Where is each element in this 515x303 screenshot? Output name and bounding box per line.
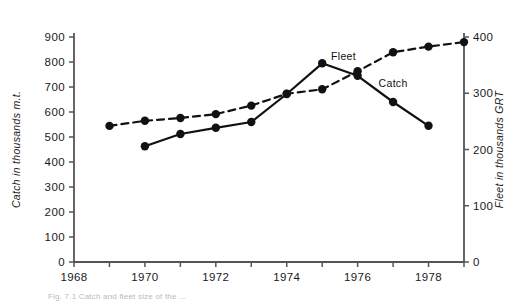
figure-panel: 0100200300400500600700800900010020030040… xyxy=(0,0,515,303)
x-axis-tick-label: 1976 xyxy=(344,271,371,283)
left-axis-tick-label: 0 xyxy=(58,256,65,268)
left-axis-tick-label: 800 xyxy=(45,56,65,68)
right-axis-tick-label: 100 xyxy=(473,200,493,212)
data-point-catch xyxy=(176,130,184,138)
right-axis-tick-label: 300 xyxy=(473,87,493,99)
data-point-fleet xyxy=(460,38,468,46)
figure-caption: Fig. 7.1 Catch and fleet size of the ... xyxy=(48,292,186,301)
series-line-catch xyxy=(145,63,429,146)
left-axis-tick-label: 200 xyxy=(45,206,65,218)
data-point-fleet xyxy=(318,85,326,93)
right-axis-tick-label: 200 xyxy=(473,144,493,156)
catch-and-fleet-line-chart: 0100200300400500600700800900010020030040… xyxy=(0,0,515,303)
data-point-fleet xyxy=(176,114,184,122)
data-point-catch xyxy=(141,142,149,150)
x-axis-tick-label: 1968 xyxy=(60,271,87,283)
left-axis-tick-label: 500 xyxy=(45,131,65,143)
series-label-catch: Catch xyxy=(379,77,408,89)
x-axis-tick-label: 1970 xyxy=(131,271,158,283)
x-axis-tick-label: 1978 xyxy=(415,271,442,283)
x-axis-tick-label: 1972 xyxy=(202,271,229,283)
left-axis-tick-label: 400 xyxy=(45,156,65,168)
data-point-catch xyxy=(424,122,432,130)
left-axis-tick-label: 700 xyxy=(45,81,65,93)
data-point-catch xyxy=(247,118,255,126)
data-point-fleet xyxy=(212,110,220,118)
left-axis-tick-label: 900 xyxy=(45,31,65,43)
left-axis-tick-label: 300 xyxy=(45,181,65,193)
data-point-fleet xyxy=(389,48,397,56)
left-axis-title: Catch in thousands m.t. xyxy=(10,91,22,208)
left-axis-tick-label: 100 xyxy=(45,231,65,243)
data-point-fleet xyxy=(353,67,361,75)
data-point-fleet xyxy=(141,117,149,125)
data-point-catch xyxy=(389,98,397,106)
data-point-fleet xyxy=(247,101,255,109)
data-point-fleet xyxy=(283,90,291,98)
data-point-fleet xyxy=(105,122,113,130)
series-label-fleet: Fleet xyxy=(331,50,356,62)
right-axis-title: Fleet in thousands GRT xyxy=(493,90,505,209)
data-point-catch xyxy=(318,59,326,67)
data-point-fleet xyxy=(424,42,432,50)
left-axis-tick-label: 600 xyxy=(45,106,65,118)
x-axis-tick-label: 1974 xyxy=(273,271,300,283)
data-point-catch xyxy=(212,124,220,132)
right-axis-tick-label: 0 xyxy=(473,256,480,268)
right-axis-tick-label: 400 xyxy=(473,31,493,43)
